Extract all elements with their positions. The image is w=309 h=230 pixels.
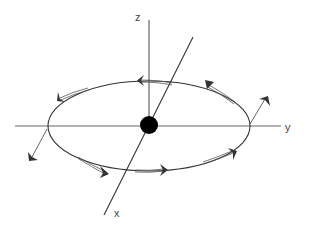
tangent-arrow-bottom-center (135, 164, 168, 176)
radial-arrow-left (28, 129, 47, 161)
tangent-arrow-top-center (137, 75, 172, 86)
tangent-arrow-top-right (205, 80, 235, 104)
radial-arrow-right (250, 96, 270, 124)
z-axis-label: z (135, 11, 141, 23)
tangent-arrow-top-left (57, 88, 89, 102)
orbit-diagram: z y x (0, 0, 309, 230)
central-body-dot (140, 116, 158, 134)
y-axis-label: y (285, 121, 291, 133)
x-axis-label: x (114, 207, 120, 219)
tangent-arrow-bottom-right (203, 148, 237, 164)
